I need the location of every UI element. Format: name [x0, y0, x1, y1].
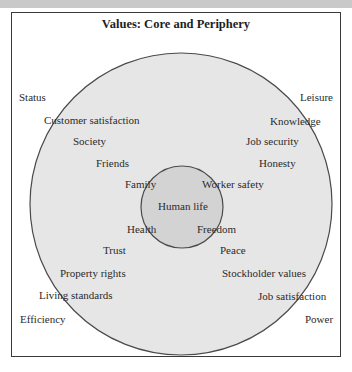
- label-knowledge: Knowledge: [270, 115, 321, 128]
- label-honesty: Honesty: [259, 157, 296, 170]
- label-freedom: Freedom: [197, 223, 236, 236]
- label-property-rights: Property rights: [60, 267, 126, 280]
- label-society: Society: [73, 135, 106, 148]
- label-trust: Trust: [103, 244, 126, 257]
- label-living-standards: Living standards: [39, 289, 113, 302]
- label-customer-satisfaction: Customer satisfaction: [44, 114, 140, 127]
- label-job-security: Job security: [246, 135, 299, 148]
- label-family: Family: [125, 178, 156, 191]
- label-worker-safety: Worker safety: [202, 178, 264, 191]
- label-leisure: Leisure: [300, 91, 333, 104]
- label-stockholder-values: Stockholder values: [222, 267, 306, 280]
- label-friends: Friends: [96, 157, 129, 170]
- label-status: Status: [19, 91, 46, 104]
- label-peace: Peace: [220, 244, 246, 257]
- diagram-title: Values: Core and Periphery: [0, 17, 352, 32]
- label-health: Health: [127, 223, 156, 236]
- label-efficiency: Efficiency: [20, 313, 66, 326]
- label-power: Power: [305, 313, 333, 326]
- label-human-life: Human life: [158, 200, 208, 213]
- label-job-satisfaction: Job satisfaction: [258, 290, 326, 303]
